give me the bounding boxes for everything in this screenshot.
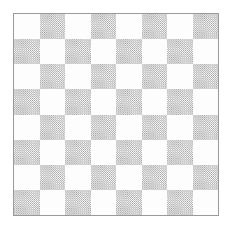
- board-square-light-r4c6: [142, 89, 168, 114]
- board-square-dark-r5c2: [40, 115, 66, 140]
- board-square-dark-r3c2: [40, 64, 66, 89]
- board-square-dark-r5c8: [193, 115, 219, 140]
- board-square-light-r5c1: [14, 115, 40, 140]
- board-square-light-r1c7: [167, 14, 193, 39]
- board-square-dark-r3c6: [142, 64, 168, 89]
- board-square-light-r6c6: [142, 140, 168, 165]
- board-square-light-r7c1: [14, 165, 40, 190]
- board-square-dark-r7c2: [40, 165, 66, 190]
- board-square-dark-r8c1: [14, 190, 40, 215]
- board-square-light-r1c1: [14, 14, 40, 39]
- board-square-light-r2c2: [40, 39, 66, 64]
- board-square-light-r4c2: [40, 89, 66, 114]
- board-square-dark-r4c5: [116, 89, 142, 114]
- board-square-dark-r4c1: [14, 89, 40, 114]
- board-square-light-r5c3: [65, 115, 91, 140]
- board-square-light-r3c7: [167, 64, 193, 89]
- board-square-dark-r2c7: [167, 39, 193, 64]
- board-square-dark-r5c4: [91, 115, 117, 140]
- board-square-light-r6c4: [91, 140, 117, 165]
- board-square-dark-r4c7: [167, 89, 193, 114]
- board-square-light-r1c3: [65, 14, 91, 39]
- board-square-light-r7c5: [116, 165, 142, 190]
- board-square-dark-r5c6: [142, 115, 168, 140]
- board-square-dark-r6c3: [65, 140, 91, 165]
- board-square-dark-r8c3: [65, 190, 91, 215]
- board-square-light-r1c5: [116, 14, 142, 39]
- board-square-light-r7c7: [167, 165, 193, 190]
- board-square-dark-r2c3: [65, 39, 91, 64]
- board-square-dark-r2c5: [116, 39, 142, 64]
- board-square-dark-r7c8: [193, 165, 219, 190]
- board-square-light-r8c8: [193, 190, 219, 215]
- board-square-light-r2c8: [193, 39, 219, 64]
- board-square-light-r5c5: [116, 115, 142, 140]
- board-square-light-r5c7: [167, 115, 193, 140]
- board-square-light-r4c4: [91, 89, 117, 114]
- board-square-dark-r7c6: [142, 165, 168, 190]
- checkerboard-grid: [13, 13, 219, 216]
- board-square-light-r7c3: [65, 165, 91, 190]
- board-square-dark-r3c4: [91, 64, 117, 89]
- board-square-light-r8c4: [91, 190, 117, 215]
- board-square-dark-r1c2: [40, 14, 66, 39]
- board-square-dark-r1c8: [193, 14, 219, 39]
- board-square-dark-r1c6: [142, 14, 168, 39]
- board-square-light-r4c8: [193, 89, 219, 114]
- board-square-light-r3c3: [65, 64, 91, 89]
- board-square-dark-r7c4: [91, 165, 117, 190]
- board-square-dark-r1c4: [91, 14, 117, 39]
- board-square-light-r3c1: [14, 64, 40, 89]
- board-square-dark-r3c8: [193, 64, 219, 89]
- board-square-dark-r6c7: [167, 140, 193, 165]
- board-square-light-r8c6: [142, 190, 168, 215]
- board-square-dark-r6c1: [14, 140, 40, 165]
- board-square-light-r2c4: [91, 39, 117, 64]
- board-square-dark-r6c5: [116, 140, 142, 165]
- board-square-light-r6c2: [40, 140, 66, 165]
- board-square-light-r6c8: [193, 140, 219, 165]
- board-square-dark-r8c7: [167, 190, 193, 215]
- board-square-dark-r2c1: [14, 39, 40, 64]
- checkerboard-figure: [0, 0, 232, 229]
- board-square-light-r2c6: [142, 39, 168, 64]
- board-square-light-r8c2: [40, 190, 66, 215]
- board-square-dark-r8c5: [116, 190, 142, 215]
- board-square-light-r3c5: [116, 64, 142, 89]
- board-square-dark-r4c3: [65, 89, 91, 114]
